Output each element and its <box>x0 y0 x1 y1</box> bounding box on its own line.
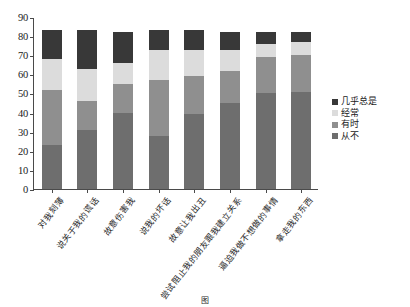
legend-item: 有时 <box>332 119 377 131</box>
chart-legend: 几乎总是经常有时从不 <box>332 96 377 142</box>
x-axis-tick <box>194 189 195 193</box>
bar-segment <box>220 50 240 71</box>
bar-segment <box>42 90 62 145</box>
bar-segment <box>42 59 62 90</box>
bar-segment <box>149 136 169 190</box>
bar-segment <box>184 76 204 114</box>
y-axis-tick-label: 30 <box>18 127 28 138</box>
x-axis-label: 说我的坏话 <box>138 196 172 237</box>
x-axis-label: 对我刻薄 <box>37 196 66 230</box>
legend-swatch-icon <box>332 133 338 139</box>
bar-segment <box>77 30 97 68</box>
bar-segment <box>256 44 276 57</box>
y-axis-tick-label: 40 <box>18 108 28 119</box>
y-axis-tick <box>30 75 34 76</box>
bar-segment <box>184 114 204 189</box>
bar-segment <box>42 30 62 59</box>
legend-item: 从不 <box>332 131 377 143</box>
y-axis-tick-label: 50 <box>18 89 28 100</box>
bar-segment <box>113 32 133 63</box>
legend-swatch-icon <box>332 99 338 105</box>
y-axis-tick <box>30 18 34 19</box>
y-axis-tick-label: 20 <box>18 147 28 158</box>
legend-swatch-icon <box>332 110 338 116</box>
bar-segment <box>256 32 276 43</box>
y-axis-tick-label: 70 <box>18 51 28 62</box>
bar-segment <box>291 42 311 55</box>
y-axis-tick-label: 10 <box>18 166 28 177</box>
figure-caption: 图 <box>0 296 410 306</box>
x-axis-tick <box>301 189 302 193</box>
bar-segment <box>149 80 169 135</box>
legend-label: 经常 <box>341 108 359 120</box>
x-axis-label: 故意让我出丑 <box>168 196 208 244</box>
bar-segment <box>256 57 276 93</box>
x-axis-tick <box>266 189 267 193</box>
y-axis-tick <box>30 37 34 38</box>
bar-segment <box>291 92 311 189</box>
x-axis-tick <box>87 189 88 193</box>
bar <box>77 30 97 189</box>
bar <box>149 30 169 189</box>
legend-item: 几乎总是 <box>332 96 377 108</box>
bar-segment <box>220 103 240 189</box>
bar <box>113 32 133 189</box>
bar-segment <box>149 30 169 49</box>
bar-segment <box>77 130 97 189</box>
y-axis-tick <box>30 152 34 153</box>
y-axis-tick <box>30 133 34 134</box>
y-axis-tick-label: 90 <box>18 13 28 24</box>
bar-segment <box>184 50 204 77</box>
legend-label: 从不 <box>341 131 359 143</box>
y-axis-tick-label: 0 <box>23 185 28 196</box>
bar-segment <box>77 69 97 101</box>
plot-area: 0102030405060708090 <box>33 18 318 190</box>
bar <box>184 30 204 189</box>
bar <box>42 30 62 189</box>
x-axis-label: 故意伤害我 <box>102 196 136 237</box>
bar <box>256 32 276 189</box>
bar-segment <box>220 71 240 103</box>
bar-segment <box>113 84 133 113</box>
bar-segment <box>77 101 97 130</box>
y-axis-tick <box>30 171 34 172</box>
bar-segment <box>220 32 240 49</box>
legend-swatch-icon <box>332 122 338 128</box>
x-axis-tick <box>123 189 124 193</box>
y-axis-tick <box>30 56 34 57</box>
bar-segment <box>291 55 311 91</box>
x-axis-label: 拿走我的东西 <box>275 196 315 244</box>
stacked-bar-chart-figure: 0102030405060708090 对我刻薄说关于我的谎话故意伤害我说我的坏… <box>0 0 410 307</box>
x-axis-tick <box>159 189 160 193</box>
bar-segment <box>291 32 311 42</box>
bar <box>220 32 240 189</box>
bar-segment <box>149 50 169 81</box>
legend-label: 几乎总是 <box>341 96 377 108</box>
bar <box>291 32 311 189</box>
legend-label: 有时 <box>341 119 359 131</box>
x-axis-tick <box>230 189 231 193</box>
bar-segment <box>184 30 204 49</box>
x-axis-tick <box>52 189 53 193</box>
y-axis-tick-label: 80 <box>18 32 28 43</box>
bar-segment <box>113 63 133 84</box>
bar-segment <box>42 145 62 189</box>
legend-item: 经常 <box>332 108 377 120</box>
y-axis-tick <box>30 94 34 95</box>
bar-segment <box>256 93 276 189</box>
bar-segment <box>113 113 133 189</box>
y-axis-tick <box>30 190 34 191</box>
y-axis-tick-label: 60 <box>18 70 28 81</box>
y-axis-tick <box>30 114 34 115</box>
